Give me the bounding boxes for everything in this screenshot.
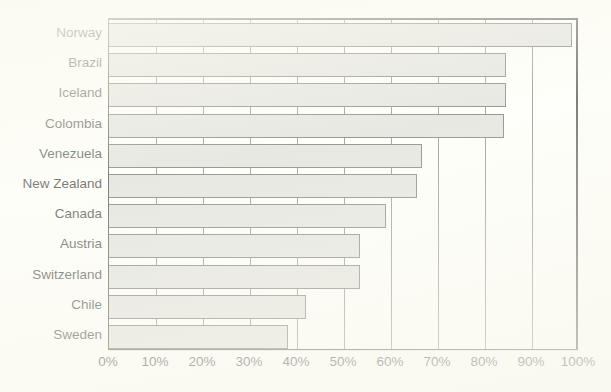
- x-tick-100%: 100%: [561, 353, 596, 371]
- bar-fill: [109, 23, 572, 47]
- y-label-iceland: Iceland: [2, 81, 102, 105]
- x-tick-70%: 70%: [423, 353, 450, 371]
- bar-austria: [109, 234, 360, 258]
- bar-new-zealand: [109, 174, 417, 198]
- x-tick-0%: 0%: [98, 353, 118, 371]
- clipped-title-strip: [0, 0, 611, 9]
- bar-canada: [109, 204, 386, 228]
- x-tick-20%: 20%: [188, 353, 215, 371]
- y-label-brazil: Brazil: [2, 51, 102, 75]
- x-tick-90%: 90%: [517, 353, 544, 371]
- x-tick-30%: 30%: [235, 353, 262, 371]
- bar-fill: [109, 325, 288, 349]
- bar-fill: [109, 83, 506, 107]
- bar-fill: [109, 114, 504, 138]
- bar-fill: [109, 174, 417, 198]
- bar-fill: [109, 204, 386, 228]
- bar-fill: [109, 265, 360, 289]
- y-label-venezuela: Venezuela: [2, 142, 102, 166]
- y-label-colombia: Colombia: [2, 112, 102, 136]
- gridline-90%: [532, 20, 533, 349]
- horizontal-bar-chart: NorwayBrazilIcelandColombiaVenezuelaNew …: [0, 0, 611, 392]
- y-label-canada: Canada: [2, 202, 102, 226]
- x-tick-80%: 80%: [470, 353, 497, 371]
- y-label-chile: Chile: [2, 293, 102, 317]
- y-label-austria: Austria: [2, 232, 102, 256]
- x-tick-60%: 60%: [376, 353, 403, 371]
- bar-colombia: [109, 114, 504, 138]
- x-tick-40%: 40%: [282, 353, 309, 371]
- bar-fill: [109, 234, 360, 258]
- bar-venezuela: [109, 144, 422, 168]
- y-label-norway: Norway: [2, 21, 102, 45]
- bar-fill: [109, 295, 306, 319]
- bar-iceland: [109, 83, 506, 107]
- bar-sweden: [109, 325, 288, 349]
- x-axis-tick-labels: 0%10%20%30%40%50%60%70%80%90%100%: [0, 353, 611, 375]
- y-label-new-zealand: New Zealand: [2, 172, 102, 196]
- bar-switzerland: [109, 265, 360, 289]
- x-tick-10%: 10%: [141, 353, 168, 371]
- bar-fill: [109, 53, 506, 77]
- x-tick-50%: 50%: [329, 353, 356, 371]
- bar-chile: [109, 295, 306, 319]
- chart-page: NorwayBrazilIcelandColombiaVenezuelaNew …: [0, 0, 611, 392]
- bar-fill: [109, 144, 422, 168]
- bar-norway: [109, 23, 572, 47]
- y-label-switzerland: Switzerland: [2, 263, 102, 287]
- bar-brazil: [109, 53, 506, 77]
- y-axis-labels: NorwayBrazilIcelandColombiaVenezuelaNew …: [0, 18, 102, 350]
- plot-area: [108, 18, 578, 350]
- y-label-sweden: Sweden: [2, 323, 102, 347]
